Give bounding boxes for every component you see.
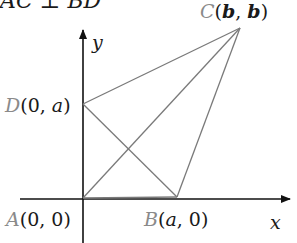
- coord-var: a: [52, 94, 63, 116]
- point-name-C: C: [200, 0, 215, 22]
- coord-paren: ): [261, 0, 268, 22]
- point-label-B: B(a, 0): [144, 210, 208, 229]
- coord-paren: ): [63, 94, 70, 116]
- diagram-canvas: AC ⊥ BD y x C(b, b) D(0, a) A(0, 0) B(a,…: [0, 0, 297, 243]
- coord-var: a: [165, 208, 176, 230]
- point-label-A: A(0, 0): [6, 210, 71, 229]
- coord-sep: ,: [235, 0, 247, 22]
- point-label-D: D(0, a): [5, 96, 71, 115]
- diagonal-AC: [83, 28, 240, 198]
- coord-text: (0, 0): [20, 208, 71, 230]
- geometry-figure: [0, 0, 297, 243]
- point-name-A: A: [6, 208, 20, 230]
- segment-AB: [83, 197, 177, 198]
- point-name-B: B: [144, 208, 158, 230]
- y-axis-label: y: [92, 33, 103, 52]
- coord-var: b: [222, 0, 235, 22]
- point-name-D: D: [5, 94, 20, 116]
- coord-text: (0,: [20, 94, 52, 116]
- point-label-C: C(b, b): [200, 2, 268, 21]
- coord-paren: (: [215, 0, 222, 22]
- coord-text: , 0): [177, 208, 209, 230]
- x-axis-label: x: [270, 213, 281, 232]
- coord-var: b: [247, 0, 260, 22]
